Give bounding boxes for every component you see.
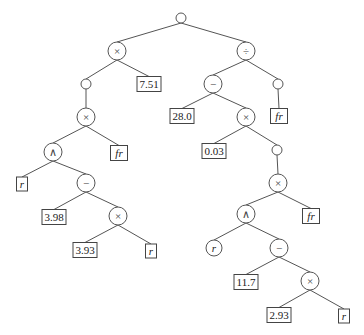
edge-mul1-c1 [86,60,117,79]
tree-nodes: ×÷7.51−×28.0×fr∧fr0.03r−×3.98×∧fr3.93rr−… [17,13,350,323]
operator-label: × [83,111,89,123]
empty-junction-circle [273,79,283,89]
constant-label: 7.51 [139,78,158,90]
node-c3 [272,145,282,155]
node-v117: 11.7 [234,275,258,290]
node-v003: 0.03 [202,144,226,159]
edge-mul6-r4 [310,290,344,309]
node-sub2: − [77,174,95,192]
node-mul1: × [108,42,126,60]
operator-label: ÷ [243,45,249,57]
operator-label: ∧ [49,146,57,158]
edge-sub1-v280 [182,93,213,109]
node-mul4: × [269,174,287,192]
edge-div1-c2 [246,60,278,79]
edge-root-mul1 [117,23,181,42]
node-mul6: × [301,272,319,290]
edge-c2-fr1 [278,89,279,109]
expression-tree-diagram: ×÷7.51−×28.0×fr∧fr0.03r−×3.98×∧fr3.93rr−… [0,0,364,335]
operator-label: × [243,111,249,123]
edge-sub1-mul3 [213,93,246,108]
node-r3: r [206,240,222,256]
constant-label: 0.03 [204,145,224,157]
node-sub3: − [270,239,288,257]
edge-mul5-v393 [85,225,118,243]
node-v393: 3.93 [73,243,97,258]
operator-label: × [275,177,281,189]
variable-label: fr [115,147,123,159]
node-pow2: ∧ [237,205,255,223]
operator-label: ∧ [242,208,250,220]
edge-mul2-fr2 [86,126,119,146]
edge-mul4-fr3 [278,192,311,209]
empty-junction-circle [176,13,186,23]
constant-label: 28.0 [172,110,192,122]
edge-div1-sub1 [213,60,246,75]
node-v751: 7.51 [137,77,161,92]
edge-pow1-sub2 [53,161,86,174]
variable-label: r [149,245,154,257]
variable-label: fr [275,110,283,122]
node-v293: 2.93 [267,308,291,323]
edge-pow2-sub3 [246,223,279,239]
edge-mul4-pow2 [246,192,278,205]
operator-label: − [83,177,89,189]
variable-label: r [342,310,347,322]
node-fr1: fr [271,109,288,124]
node-mul3: × [237,108,255,126]
expression-tree-svg: ×÷7.51−×28.0×fr∧fr0.03r−×3.98×∧fr3.93rr−… [0,0,364,335]
edge-c3-mul4 [277,155,278,174]
operator-label: − [276,242,282,254]
constant-label: 3.98 [44,211,64,223]
edge-pow2-r3 [214,223,246,240]
node-mul2: × [77,108,95,126]
node-r4: r [339,309,350,323]
node-v398: 3.98 [42,210,66,225]
tree-edges [22,23,344,309]
edge-sub2-mul5 [86,192,118,207]
edge-root-div1 [181,23,246,42]
edge-sub3-mul6 [279,257,310,272]
variable-label: r [212,242,217,254]
node-r1: r [17,177,28,191]
node-div1: ÷ [237,42,255,60]
node-root [176,13,186,23]
edge-mul5-r2 [118,225,151,244]
empty-junction-circle [272,145,282,155]
node-mul5: × [109,207,127,225]
edge-mul2-pow1 [53,126,86,143]
edge-mul3-v003 [214,126,246,144]
variable-label: fr [307,210,315,222]
edge-mul1-v751 [117,60,149,77]
edge-mul3-c3 [246,126,277,145]
node-c2 [273,79,283,89]
operator-label: − [210,78,216,90]
edge-mul6-v293 [279,290,310,308]
node-pow1: ∧ [44,143,62,161]
operator-label: × [114,45,120,57]
operator-label: × [115,210,121,222]
operator-label: × [307,275,313,287]
constant-label: 11.7 [237,276,256,288]
edge-pow1-r1 [22,161,53,177]
variable-label: r [20,178,25,190]
node-fr3: fr [303,209,320,224]
node-r2: r [146,244,157,258]
edge-sub2-v398 [54,192,86,210]
constant-label: 2.93 [269,309,289,321]
constant-label: 3.93 [75,244,95,256]
empty-junction-circle [81,79,91,89]
edge-sub3-v117 [246,257,279,275]
node-c1 [81,79,91,89]
node-sub1: − [204,75,222,93]
node-fr2: fr [111,146,128,161]
node-v280: 28.0 [170,109,194,124]
